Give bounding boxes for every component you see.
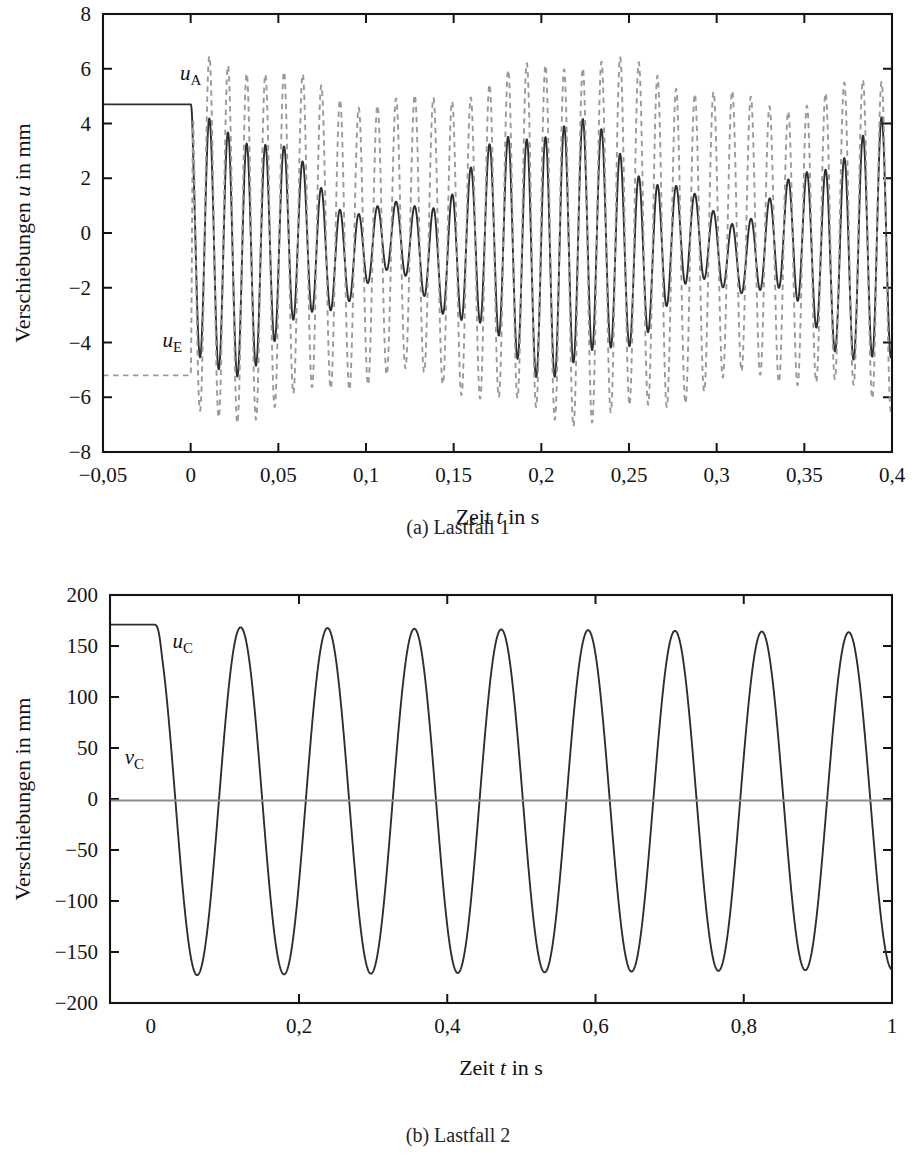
y-tick-label: −2 [69,276,91,300]
x-tick-label: 0,15 [435,463,472,487]
y-tick-label: −6 [69,385,91,409]
y-tick-label: −100 [55,889,98,913]
x-tick-label: 0 [185,463,196,487]
y-tick-label: 4 [81,112,92,136]
chart-svg-lastfall-1: −0,0500,050,10,150,20,250,30,350,4−8−6−4… [0,0,916,560]
y-tick-label: −200 [55,991,98,1015]
plot-frame [110,595,892,1003]
curve-u-a [103,104,892,377]
y-tick-label: 50 [77,736,98,760]
x-tick-label: −0,05 [79,463,128,487]
y-tick-label: 6 [81,57,92,81]
x-tick-label: 0,2 [528,463,554,487]
x-axis-title: Zeit t in s [459,1055,543,1080]
x-tick-label: 0 [146,1014,157,1038]
x-tick-label: 0,4 [879,463,906,487]
chart-panel-lastfall-1: −0,0500,050,10,150,20,250,30,350,4−8−6−4… [0,0,916,560]
curve-label-u-e: uE [162,328,182,355]
caption-lastfall-2: (b) Lastfall 2 [0,1124,916,1147]
chart-panel-lastfall-2: 00,20,40,60,81−200−150−100−5005010015020… [0,560,916,1169]
y-axis-title: Verschiebungen in mm [10,698,35,901]
y-tick-label: −8 [69,440,91,464]
y-tick-label: 100 [67,685,99,709]
y-tick-label: −4 [69,331,92,355]
chart-svg-lastfall-2: 00,20,40,60,81−200−150−100−5005010015020… [0,560,916,1169]
x-tick-label: 0,35 [786,463,823,487]
y-tick-label: 150 [67,634,99,658]
x-tick-label: 0,1 [353,463,379,487]
y-tick-label: 0 [81,221,92,245]
x-tick-label: 0,05 [260,463,297,487]
curve-label-u-c: uC [172,629,193,656]
curves-group [103,56,892,426]
y-axis-title: Verschiebungen u in mm [10,123,35,342]
x-tick-label: 0,4 [434,1014,461,1038]
y-tick-label: 8 [81,2,92,26]
curve-label-u-a: uA [180,61,202,88]
x-tick-label: 0,2 [286,1014,312,1038]
x-tick-label: 0,6 [582,1014,608,1038]
caption-lastfall-1: (a) Lastfall 1 [0,516,916,539]
curve-label-v-c: vC [125,745,144,772]
x-tick-label: 1 [887,1014,898,1038]
y-tick-label: 200 [67,583,99,607]
y-tick-label: 0 [88,787,99,811]
figure-root: −0,0500,050,10,150,20,250,30,350,4−8−6−4… [0,0,916,1169]
y-tick-label: 2 [81,166,92,190]
x-tick-label: 0,25 [611,463,648,487]
x-tick-label: 0,3 [704,463,730,487]
y-tick-label: −50 [65,838,98,862]
curves-group [110,625,892,976]
x-tick-label: 0,8 [731,1014,757,1038]
y-tick-label: −150 [55,940,98,964]
